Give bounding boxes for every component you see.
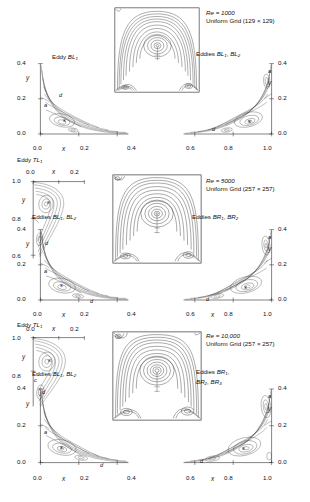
bottom-right-eddy-panel-re10000 [182,387,274,471]
eddy-label-symbol-2: BL [66,213,74,220]
eddy-label-symbol-2: BR [196,378,205,385]
xtick-tl-re10000-1: 0.2 [70,325,79,332]
xtick-bl-re5000-2: 0.4 [127,310,136,317]
grid-label-re5000: Uniform Grid (257 × 257) [206,185,275,193]
bottom-left-eddy-panel-re10000 [38,387,130,471]
xtick-br-re5000-2: 1.0 [263,310,272,317]
xtick-tl-re5000-0: 0.0 [26,168,35,175]
xtick-tl-re5000-1: 0.2 [70,168,79,175]
xtick-br-re10000-0: 0.6 [186,474,195,481]
ytick-tl-re5000-2: 0.6 [12,252,21,259]
ytick-br-re10000-2: 0.0 [278,458,287,465]
point-mark-s-br-re5000: s [244,284,247,290]
eddy-label-prefix: Eddies [196,368,215,375]
ytick-bl-re10000-0: 0.4 [17,384,26,391]
ytick-bl-re10000-2: 0.0 [17,458,26,465]
xtick-bl-re10000-0: 0.0 [33,474,42,481]
point-mark-s-tl-re5000: s [47,199,50,205]
ytick-bl-re5000-0: 0.4 [17,225,26,232]
ytick-tl-re5000-1: 0.8 [12,215,21,222]
eddy-label-prefix: Eddies [32,213,51,220]
point-mark-s-bl-re1000: s [63,117,66,123]
ytick-tl-re10000-0: 1.0 [12,334,21,341]
eddy-label-prefix: Eddies [192,213,211,220]
xtick-br-re10000-1: 0.8 [224,474,233,481]
eddy-label-symbol: BR [213,213,222,220]
eddy-label-symbol: BR [217,368,226,375]
eddy-label-symbol-3: BR [211,378,220,385]
eddy-label-prefix: Eddy [52,53,66,60]
reynolds-label-re1000: Re = 1000 [206,9,275,17]
xtick-bl-re5000-0: 0.0 [33,310,42,317]
point-mark-d-bl-re5000: d [90,298,93,304]
point-mark-a-br-re5000: a [268,234,271,240]
point-mark-d-bl-re1000: d [59,92,62,98]
xtick-bl-re10000-1: 0.2 [80,474,89,481]
point-mark-s-br-re10000: s [242,445,245,451]
point-mark-d-br-re1000: d [212,126,215,132]
yaxis-label-tl-re10000: y [22,353,25,360]
eddy-label-br-line1: Eddies BR1, [196,368,229,378]
ytick-tl-re10000-1: 0.8 [12,372,21,379]
xtick-bl-re10000-2: 0.4 [127,474,136,481]
grid-label-re10000: Uniform Grid (257 × 257) [206,340,275,348]
conditions-re5000: Re = 5000 Uniform Grid (257 × 257) [206,177,275,193]
eddy-label-sub: 1 [40,159,42,164]
eddy-label-prefix: Eddies [32,370,51,377]
xaxis-label-tl-re5000: x [52,168,55,175]
eddy-label-br-re10000: Eddies BR1, BR2, BR3 [196,368,229,388]
panel-group-re10000: 0.0 x 0.2 1.0 0.8 y [0,325,310,502]
xaxis-label-br-re5000: x [211,311,214,318]
conditions-re1000: Re = 1000 Uniform Grid (129 × 129) [206,9,275,25]
panel-group-re5000: 0.0 x 0.2 1.0 0.8 0.6 y [0,168,310,325]
ytick-tl-re5000-0: 1.0 [12,177,21,184]
bottom-right-eddy-panel-re5000 [182,228,274,308]
reynolds-label-re10000: Re = 10,000 [206,332,275,340]
eddy-label-sub-1: 1 [60,373,62,378]
eddy-label-sub-2: 2 [74,216,76,221]
xtick-bl-re1000-2: 0.4 [127,144,136,151]
xtick-tl-re10000-0: 0.0 [26,325,35,332]
eddy-label-sub-1: 1 [221,216,223,221]
eddy-label-sub-2: 2 [205,381,207,386]
xtick-bl-re1000-0: 0.0 [33,144,42,151]
eddy-label-sub: 1 [75,56,77,61]
ytick-bl-re1000-2: 0.0 [17,129,26,136]
yaxis-label-bl-re1000: y [26,74,29,81]
ytick-br-re5000-1: 0.2 [278,260,287,267]
ytick-bl-re10000-1: 0.2 [17,421,26,428]
eddy-label-sub-2: 2 [236,216,238,221]
ytick-bl-re5000-1: 0.2 [17,260,26,267]
xaxis-label-bl-re10000: x [62,475,65,482]
xtick-br-re5000-0: 0.6 [186,310,195,317]
eddy-label-symbol-2: BR [227,213,236,220]
point-mark-d-bl-re10000: d [100,462,103,468]
xtick-br-re5000-1: 0.8 [224,310,233,317]
xtick-br-re1000-2: 1.0 [263,144,272,151]
xaxis-label-bl-re1000: x [62,145,65,152]
eddy-label-br-re5000: Eddies BR1, BR2 [192,213,238,222]
point-mark-s-bl-re5000: s [60,282,63,288]
eddy-label-prefix: Eddy [17,156,31,163]
yaxis-label-tl-re5000: y [22,196,25,203]
ytick-br-re1000-2: 0.0 [278,129,287,136]
yaxis-label-br-re10000: y [268,405,271,412]
xtick-bl-re1000-1: 0.2 [80,144,89,151]
eddy-label-sub-2: 2 [74,373,76,378]
eddy-label-bl-re5000: Eddies BL1, BL2 [32,213,76,222]
eddy-label-symbol-2: BL [230,50,238,57]
eddy-label-sub-2: 2 [238,53,240,58]
eddy-label-bl-re1000: Eddy BL1 [52,53,78,62]
bottom-left-eddy-panel-re5000 [38,228,130,308]
xaxis-label-br-re10000: x [211,475,214,482]
point-mark-s-br-re1000: s [248,118,251,124]
ytick-br-re1000-1: 0.2 [278,94,287,101]
figure-root: Re = 1000 Uniform Grid (129 × 129) Eddy … [0,0,310,502]
point-mark-d-br-re10000: d [200,458,203,464]
ytick-br-re1000-0: 0.4 [278,59,287,66]
eddy-label-sub-1: 1 [225,371,227,376]
ytick-br-re5000-2: 0.0 [278,295,287,302]
point-mark-d-br-re5000: d [206,296,209,302]
ytick-br-re10000-0: 0.4 [278,384,287,391]
point-mark-a-bl-re5000: a [44,268,47,274]
